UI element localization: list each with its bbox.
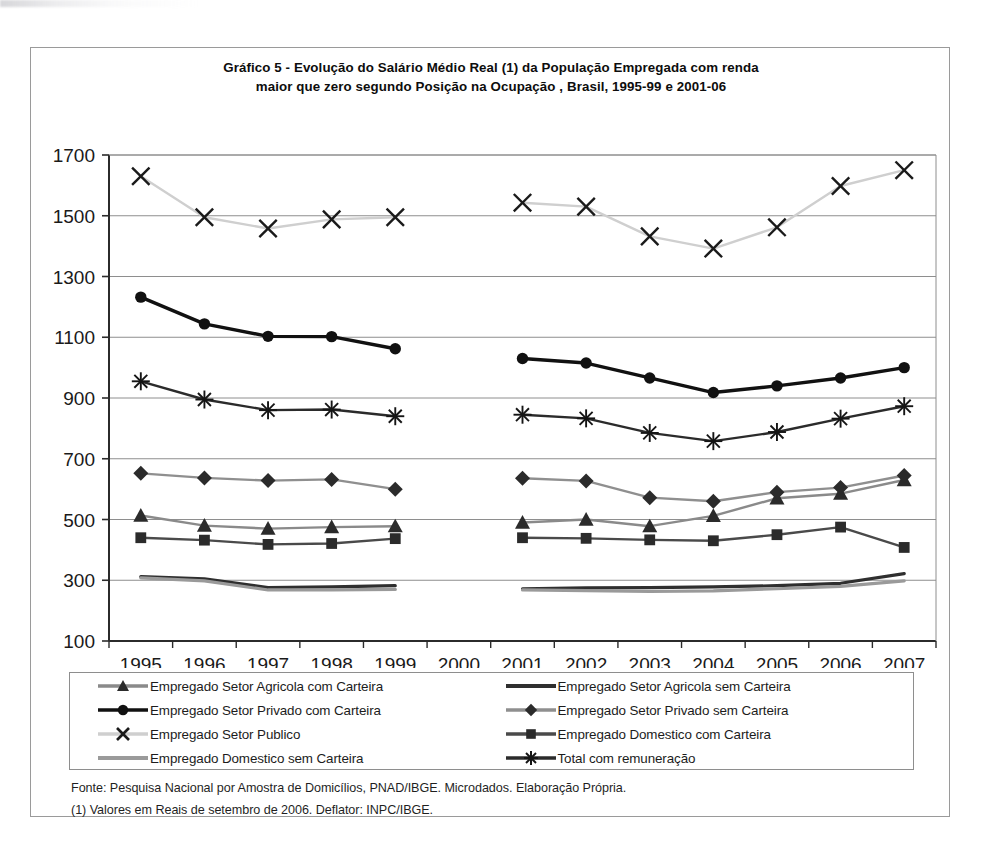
chart-legend: Empregado Setor Agricola com CarteiraEmp… bbox=[69, 672, 914, 770]
series-4 bbox=[132, 161, 913, 257]
x-axis-tick-label: 2005 bbox=[756, 654, 798, 668]
data-point-diamond-marker bbox=[324, 472, 339, 487]
footnotes: Fonte: Pesquisa Nacional por Amostra de … bbox=[71, 778, 931, 821]
data-point-diamond-marker bbox=[197, 470, 212, 485]
data-point-x-marker bbox=[895, 161, 912, 178]
data-point-asterisk-marker bbox=[832, 410, 850, 428]
data-point-triangle-marker bbox=[133, 508, 148, 522]
data-point-circle-marker bbox=[644, 372, 655, 383]
data-point-square-marker bbox=[581, 533, 592, 544]
data-point-asterisk-marker bbox=[514, 406, 532, 424]
legend-item[interactable]: Empregado Setor Agricola com Carteira bbox=[70, 674, 492, 698]
data-point-x-marker bbox=[768, 219, 785, 236]
legend-none-icon bbox=[504, 677, 558, 695]
data-point-square-marker bbox=[326, 538, 337, 549]
legend-label: Empregado Domestico com Carteira bbox=[558, 727, 771, 742]
legend-x-icon bbox=[96, 725, 150, 743]
data-point-asterisk-marker bbox=[259, 401, 277, 419]
y-axis-tick-label: 700 bbox=[63, 449, 95, 470]
x-axis-tick-label: 2001 bbox=[501, 654, 543, 668]
data-point-asterisk-marker bbox=[641, 424, 659, 442]
legend-item[interactable]: Empregado Domestico sem Carteira bbox=[70, 746, 492, 770]
series-3 bbox=[133, 466, 911, 509]
series-line bbox=[141, 176, 395, 228]
data-point-diamond-marker bbox=[388, 482, 403, 497]
y-axis-tick-label: 1300 bbox=[53, 267, 95, 288]
legend-item[interactable]: Empregado Setor Agricola sem Carteira bbox=[492, 674, 914, 698]
data-point-square-marker bbox=[199, 535, 210, 546]
chart-card: Gráfico 5 - Evolução do Salário Médio Re… bbox=[30, 47, 950, 817]
data-point-circle-marker bbox=[517, 353, 528, 364]
data-point-square-marker bbox=[517, 532, 528, 543]
data-point-square-marker bbox=[899, 542, 910, 553]
legend-label: Empregado Setor Agricola com Carteira bbox=[150, 679, 383, 694]
data-point-square-marker bbox=[772, 529, 783, 540]
data-point-circle-marker bbox=[898, 362, 909, 373]
data-point-asterisk-marker bbox=[895, 397, 913, 415]
x-axis-tick-label: 2004 bbox=[692, 654, 735, 668]
data-point-diamond-marker bbox=[515, 471, 530, 486]
x-axis-tick-label: 2007 bbox=[883, 654, 925, 668]
y-axis-tick-label: 1500 bbox=[53, 206, 95, 227]
data-point-diamond-marker bbox=[579, 473, 594, 488]
data-point-circle-marker bbox=[771, 380, 782, 391]
series-2 bbox=[135, 291, 910, 398]
legend-asterisk-icon bbox=[504, 749, 558, 767]
data-point-x-marker bbox=[132, 168, 149, 185]
legend-triangle-icon bbox=[96, 677, 150, 695]
data-point-asterisk-marker bbox=[386, 407, 404, 425]
y-axis-tick-label: 1700 bbox=[53, 145, 95, 166]
x-axis-tick-label: 1998 bbox=[311, 654, 353, 668]
series-1 bbox=[141, 574, 904, 589]
series-line bbox=[523, 170, 905, 248]
footnote-source: Fonte: Pesquisa Nacional por Amostra de … bbox=[71, 778, 931, 800]
legend-item[interactable]: Empregado Domestico com Carteira bbox=[492, 722, 914, 746]
legend-label: Empregado Setor Agricola sem Carteira bbox=[558, 679, 791, 694]
data-point-square-marker bbox=[644, 534, 655, 545]
legend-item[interactable]: Empregado Setor Privado com Carteira bbox=[70, 698, 492, 722]
data-point-circle-marker bbox=[580, 357, 591, 368]
legend-item[interactable]: Empregado Setor Publico bbox=[70, 722, 492, 746]
data-point-square-marker bbox=[135, 532, 146, 543]
x-axis-tick-label: 1996 bbox=[183, 654, 225, 668]
legend-label: Empregado Setor Privado com Carteira bbox=[150, 703, 381, 718]
data-point-asterisk-marker bbox=[132, 372, 150, 390]
data-point-asterisk-marker bbox=[195, 391, 213, 409]
legend-grid: Empregado Setor Agricola com CarteiraEmp… bbox=[70, 673, 913, 769]
x-axis-tick-label: 2003 bbox=[629, 654, 671, 668]
footnote-deflator: (1) Valores em Reais de setembro de 2006… bbox=[71, 800, 931, 822]
data-point-square-marker bbox=[390, 533, 401, 544]
data-point-circle-marker bbox=[708, 387, 719, 398]
legend-label: Empregado Setor Publico bbox=[150, 727, 300, 742]
x-axis-tick-label: 2002 bbox=[565, 654, 607, 668]
data-point-diamond-marker bbox=[261, 473, 276, 488]
data-point-diamond-marker bbox=[642, 490, 657, 505]
data-point-circle-marker bbox=[326, 331, 337, 342]
data-point-circle-marker bbox=[835, 372, 846, 383]
data-point-asterisk-marker bbox=[323, 401, 341, 419]
data-point-circle-marker bbox=[390, 343, 401, 354]
scan-artifact bbox=[0, 0, 250, 7]
data-point-asterisk-marker bbox=[577, 409, 595, 427]
legend-circle-icon bbox=[96, 701, 150, 719]
data-point-square-marker bbox=[835, 522, 846, 533]
legend-item[interactable]: Total com remuneração bbox=[492, 746, 914, 770]
y-axis-tick-label: 100 bbox=[63, 631, 95, 652]
x-axis-tick-label: 1995 bbox=[120, 654, 162, 668]
y-axis-tick-label: 300 bbox=[63, 570, 95, 591]
legend-label: Total com remuneração bbox=[558, 751, 696, 766]
legend-label: Empregado Setor Privado sem Carteira bbox=[558, 703, 789, 718]
data-point-circle-marker bbox=[199, 318, 210, 329]
x-axis-tick-label: 1997 bbox=[247, 654, 289, 668]
x-axis-tick-label: 1999 bbox=[374, 654, 416, 668]
data-point-diamond-marker bbox=[706, 494, 721, 509]
data-point-asterisk-marker bbox=[704, 432, 722, 450]
legend-none-icon bbox=[96, 749, 150, 767]
data-point-x-marker bbox=[832, 177, 849, 194]
legend-item[interactable]: Empregado Setor Privado sem Carteira bbox=[492, 698, 914, 722]
x-axis-tick-label: 2000 bbox=[438, 654, 480, 668]
legend-square-icon bbox=[504, 725, 558, 743]
y-axis-tick-label: 500 bbox=[63, 510, 95, 531]
data-point-diamond-marker bbox=[133, 466, 148, 481]
data-point-circle-marker bbox=[135, 291, 146, 302]
